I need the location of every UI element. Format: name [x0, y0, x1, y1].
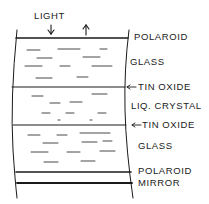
label-glass-top: GLASS	[130, 57, 165, 67]
liquid-crystal-texture	[32, 94, 107, 120]
label-tin-oxide-top: TIN OXIDE	[138, 82, 191, 92]
light-label: LIGHT	[34, 11, 65, 21]
light-up-arrow-icon	[83, 25, 89, 35]
label-mirror: MIRROR	[138, 178, 180, 188]
label-tin-oxide-bottom: TIN OXIDE	[142, 120, 195, 130]
glass-top-texture	[25, 49, 112, 78]
lcd-layer-diagram: LIGHT POLAROID GLASS TIN OXIDE LIQ. CRYS…	[0, 0, 209, 204]
label-polaroid-top: POLAROID	[134, 32, 188, 42]
tin-oxide-top-arrow-icon	[127, 85, 136, 89]
light-down-arrow-icon	[48, 25, 54, 34]
label-glass-bottom: GLASS	[138, 141, 173, 151]
label-liquid-crystal: LIQ. CRYSTAL	[131, 101, 202, 111]
glass-bottom-texture	[28, 133, 115, 162]
tin-oxide-bottom-arrow-icon	[132, 123, 141, 127]
label-polaroid-bottom: POLAROID	[138, 166, 192, 176]
